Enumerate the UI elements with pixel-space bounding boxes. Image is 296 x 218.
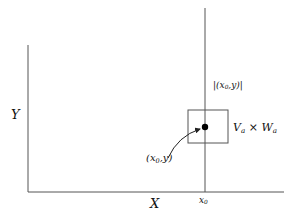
window-v-sub: a [241, 126, 245, 135]
x0-tick-sub: 0 [204, 199, 208, 205]
window-w-sub: a [273, 126, 277, 135]
window-times: × [249, 121, 258, 134]
vertical-line-label: |(x0,y)| [213, 81, 243, 91]
point-label: (x0,y) [146, 153, 172, 164]
vertical-line-label-close: ,y)| [228, 80, 243, 90]
x0-tick-label: x0 [199, 196, 208, 206]
point-dot [202, 124, 208, 130]
diagram-lines [0, 0, 296, 218]
window-w: W [261, 121, 272, 134]
diagram-canvas: Y X x0 |(x0,y)| Va × Wa (x0,y) [0, 0, 296, 218]
point-label-close: ,y) [160, 152, 173, 163]
y-axis-label: Y [11, 108, 20, 121]
window-v: V [233, 121, 241, 134]
vertical-line-label-open: |(x [213, 80, 225, 90]
window-size-label: Va × Wa [233, 122, 277, 134]
x-axis-label: X [150, 197, 159, 210]
point-label-open: (x [146, 152, 156, 163]
